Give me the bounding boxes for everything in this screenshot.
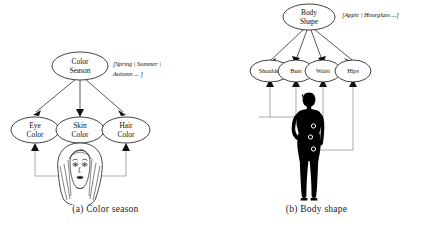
body-silhouette [292, 93, 325, 201]
color-season-diagram: Color Season [Spring | Summer | Autumn .… [0, 0, 211, 205]
node-hair-color[interactable]: Hair Color [102, 117, 150, 143]
node-waist-label: Waist [316, 67, 330, 74]
node-color-season-line2: Season [70, 66, 91, 75]
node-eye-color[interactable]: Eye Color [11, 117, 59, 143]
node-skin-color[interactable]: Skin Color [56, 117, 104, 143]
node-hair-color-line1: Hair [119, 121, 133, 130]
node-eye-color-line1: Eye [29, 121, 41, 130]
node-bust-label: Bust [290, 67, 302, 74]
node-hair-color-line2: Color [118, 130, 135, 139]
annotation-line1: [Spring | Summer | [113, 60, 161, 68]
body-shape-diagram: Body Shape [Apple | Hourglass ...] Shoul… [211, 0, 422, 205]
node-body-shape[interactable]: Body Shape [283, 4, 335, 30]
caption-body-shape: (b) Body shape [211, 204, 422, 214]
node-eye-color-line2: Color [27, 130, 44, 139]
node-body-shape-line1: Body [301, 8, 317, 17]
arrowhead-skin [76, 109, 84, 117]
annotation-body-shape: [Apple | Hourglass ...] [342, 11, 399, 19]
face-illustration [58, 143, 103, 205]
annotation-line2: Autumn ... ] [112, 70, 143, 78]
figure-container: Color Season [Spring | Summer | Autumn .… [0, 0, 423, 242]
node-skin-color-line2: Color [72, 130, 89, 139]
tree-edges-color-season [33, 78, 126, 117]
node-skin-color-line1: Skin [73, 121, 87, 130]
caption-color-season: (a) Color season [0, 204, 211, 214]
node-hips[interactable]: Hips [335, 60, 371, 82]
subfigure-color-season: Color Season [Spring | Summer | Autumn .… [0, 0, 211, 242]
arrowhead-feed-eye [31, 143, 39, 151]
node-body-shape-line2: Shape [300, 17, 319, 26]
annotation-line1: [Apple | Hourglass ...] [342, 11, 399, 19]
tree-edges-body-shape [268, 29, 355, 64]
subfigure-body-shape: Body Shape [Apple | Hourglass ...] Shoul… [211, 0, 422, 242]
arrowhead-feed-hair [122, 143, 130, 151]
node-hips-label: Hips [347, 67, 359, 74]
annotation-color-season: [Spring | Summer | Autumn ... ] [112, 60, 161, 78]
node-color-season[interactable]: Color Season [52, 52, 108, 80]
node-color-season-line1: Color [72, 57, 89, 66]
